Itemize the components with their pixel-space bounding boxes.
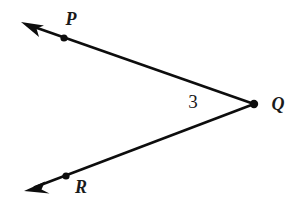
label-r: R (74, 177, 87, 197)
geometry-figure: P Q R 3 (0, 0, 300, 210)
label-q: Q (272, 94, 285, 114)
point-dot-p (60, 34, 67, 41)
point-dot-r (62, 172, 69, 179)
point-dot-q (250, 100, 258, 108)
label-angle-number: 3 (188, 91, 198, 112)
angle-diagram-canvas: P Q R 3 (0, 0, 300, 210)
label-p: P (65, 9, 78, 29)
